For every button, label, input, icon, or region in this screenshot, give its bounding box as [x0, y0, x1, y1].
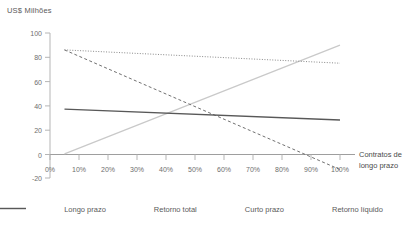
legend-swatch-retorno-liquido: [301, 206, 327, 213]
x-tick-label: 10%: [66, 166, 92, 173]
y-tick-label: 80: [20, 54, 42, 61]
x-tick-label: 30%: [124, 166, 150, 173]
x-tick-label: 60%: [211, 166, 237, 173]
legend-item-retorno-total[interactable]: Retorno total: [123, 205, 197, 214]
legend-label-retorno-total: Retorno total: [154, 205, 197, 214]
y-tick-label: 0: [20, 151, 42, 158]
annotation-line-1: Contratos de: [359, 149, 402, 160]
annotation-line-2: longo prazo: [359, 160, 402, 171]
x-tick-label: 50%: [182, 166, 208, 173]
y-tick-label: -20: [20, 175, 42, 182]
y-tick-label: 20: [20, 127, 42, 134]
y-tick-label: 100: [20, 30, 42, 37]
series-line-curto-prazo: [65, 50, 341, 170]
legend-swatch-longo-prazo: [33, 206, 59, 213]
x-tick-label: 90%: [298, 166, 324, 173]
y-tick-label: 60: [20, 78, 42, 85]
legend-item-longo-prazo[interactable]: Longo prazo: [33, 205, 106, 214]
chart-canvas: [0, 0, 416, 226]
series-line-retorno-liquido: [65, 109, 341, 120]
x-tick-label: 70%: [240, 166, 266, 173]
series-line-retorno-total: [65, 50, 341, 63]
x-tick-marks: [50, 155, 340, 161]
y-tick-label: 40: [20, 102, 42, 109]
x-tick-label: 0%: [37, 166, 63, 173]
legend-item-curto-prazo[interactable]: Curto prazo: [214, 205, 284, 214]
x-tick-label: 80%: [269, 166, 295, 173]
legend-swatch-retorno-total: [123, 206, 149, 213]
x-tick-label: 100%: [327, 166, 353, 173]
legend-item-retorno-liquido[interactable]: Retorno líquido: [301, 205, 383, 214]
chart-container: US$ Milhões: [0, 0, 416, 226]
x-tick-label: 20%: [95, 166, 121, 173]
legend-swatch-curto-prazo: [214, 206, 240, 213]
chart-legend: Longo prazo Retorno total Curto prazo Re…: [0, 205, 416, 214]
legend-label-retorno-liquido: Retorno líquido: [332, 205, 383, 214]
x-tick-label: 40%: [153, 166, 179, 173]
legend-label-curto-prazo: Curto prazo: [245, 205, 284, 214]
legend-label-longo-prazo: Longo prazo: [64, 205, 106, 214]
annotation-contratos-longo-prazo: Contratos de longo prazo: [359, 149, 402, 171]
y-tick-marks: [45, 33, 50, 178]
